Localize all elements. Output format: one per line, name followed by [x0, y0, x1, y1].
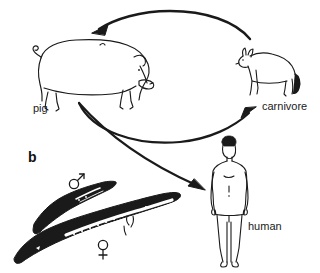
female-symbol-icon — [98, 240, 107, 259]
arrow-carnivore-to-pig-icon — [92, 11, 250, 39]
panel-letter-b: b — [28, 150, 37, 164]
figure-drawing — [0, 0, 320, 273]
carnivore-illustration — [236, 48, 300, 96]
label-carnivore: carnivore — [262, 101, 307, 112]
arrow-pig-to-human-icon — [79, 103, 205, 190]
male-symbol-icon — [69, 174, 84, 189]
label-pig: pig — [33, 103, 48, 114]
label-human: human — [248, 221, 282, 232]
pig-illustration — [33, 40, 154, 111]
trichinella-life-cycle-figure: b pig carnivore human — [0, 0, 320, 273]
human-illustration — [211, 136, 248, 267]
